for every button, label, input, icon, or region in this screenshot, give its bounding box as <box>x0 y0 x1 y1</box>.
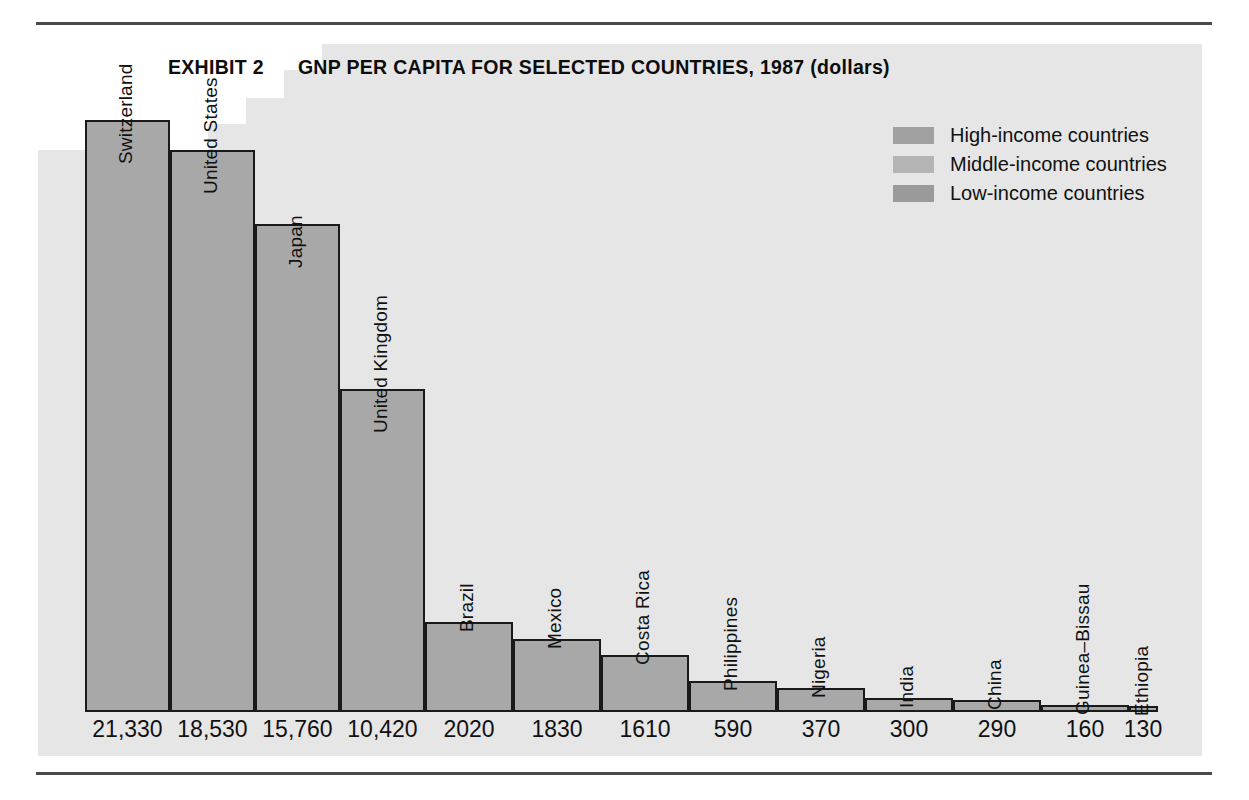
value-label-mexico: 1830 <box>513 716 601 743</box>
exhibit-title: EXHIBIT 2GNP PER CAPITA FOR SELECTED COU… <box>168 56 890 79</box>
bar-label-brazil: Brazil <box>456 583 478 632</box>
value-label-india: 300 <box>865 716 953 743</box>
bar-label-mexico: Mexico <box>544 588 566 649</box>
bar-brazil[interactable] <box>425 622 513 712</box>
bar-switzerland[interactable] <box>85 120 170 712</box>
value-label-japan: 15,760 <box>255 716 340 743</box>
bar-label-switzerland: Switzerland <box>115 64 137 164</box>
exhibit-number: EXHIBIT 2 <box>168 56 264 78</box>
bar-label-costa-rica: Costa Rica <box>632 570 654 665</box>
value-label-row: 21,33018,53015,76010,4202020183016105903… <box>85 716 1158 750</box>
bar-label-philippines: Philippines <box>720 597 742 691</box>
bar-label-united-kingdom: United Kingdom <box>370 295 392 433</box>
value-label-ethiopia: 130 <box>1099 716 1187 743</box>
value-label-united-states: 18,530 <box>170 716 255 743</box>
exhibit-page: EXHIBIT 2GNP PER CAPITA FOR SELECTED COU… <box>0 0 1249 800</box>
value-label-brazil: 2020 <box>425 716 513 743</box>
value-label-nigeria: 370 <box>777 716 865 743</box>
bar-label-guinea-bissau: Guinea–Bissau <box>1072 583 1094 714</box>
value-label-costa-rica: 1610 <box>601 716 689 743</box>
value-label-switzerland: 21,330 <box>85 716 170 743</box>
bar-united-states[interactable] <box>170 150 255 712</box>
bar-label-japan: Japan <box>285 215 307 268</box>
bar-japan[interactable] <box>255 224 340 712</box>
value-label-philippines: 590 <box>689 716 777 743</box>
bar-label-ethiopia: Ethiopia <box>1131 646 1153 716</box>
bar-label-india: India <box>896 666 918 708</box>
value-label-united-kingdom: 10,420 <box>340 716 425 743</box>
bar-mexico[interactable] <box>513 639 601 712</box>
bar-label-united-states: United States <box>200 77 222 194</box>
exhibit-title-text: GNP PER CAPITA FOR SELECTED COUNTRIES, 1… <box>298 56 890 78</box>
bar-label-china: China <box>984 660 1006 711</box>
bar-united-kingdom[interactable] <box>340 389 425 712</box>
plot-area: SwitzerlandUnited StatesJapanUnited King… <box>85 120 1158 712</box>
bar-chart: EXHIBIT 2GNP PER CAPITA FOR SELECTED COU… <box>0 0 1249 800</box>
value-label-china: 290 <box>953 716 1041 743</box>
bar-label-nigeria: Nigeria <box>808 636 830 698</box>
